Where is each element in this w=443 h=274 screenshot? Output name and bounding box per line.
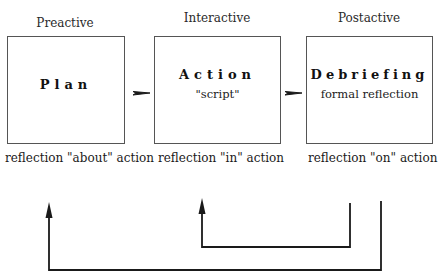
- arrow-up-icon: [199, 198, 206, 214]
- feedback-loop-inner: [199, 198, 351, 247]
- arrow-right-icon: [133, 92, 150, 96]
- arrow-up-icon: [46, 202, 53, 218]
- connectors: [0, 0, 443, 274]
- feedback-loop-outer: [46, 201, 382, 270]
- arrow-right-icon: [285, 92, 302, 96]
